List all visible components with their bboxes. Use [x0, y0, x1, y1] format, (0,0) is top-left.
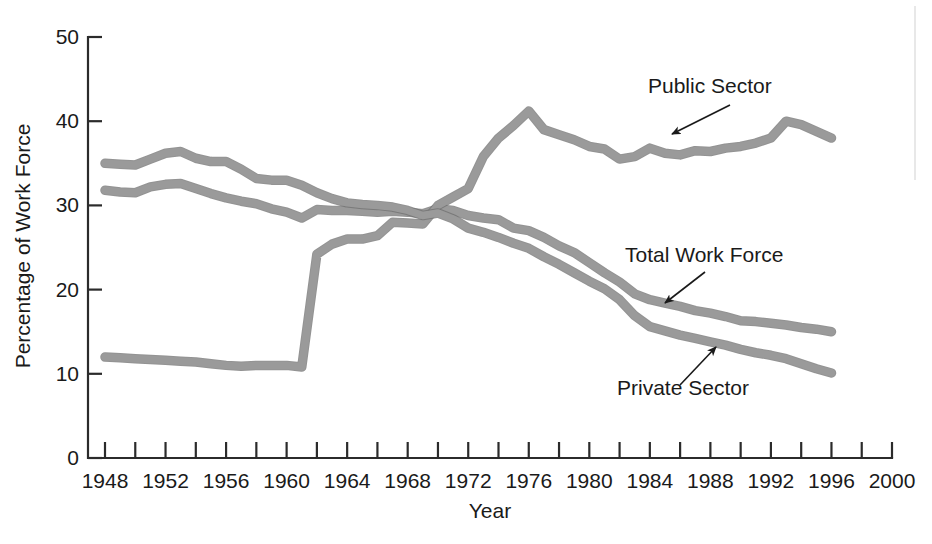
y-axis-ticks — [88, 37, 102, 458]
annotation-label-total-work-force: Total Work Force — [625, 243, 783, 266]
x-tick-label: 1992 — [748, 469, 795, 492]
x-tick-label: 1980 — [566, 469, 613, 492]
x-tick-label: 1948 — [82, 469, 129, 492]
y-tick-label: 40 — [56, 109, 79, 132]
x-axis-title: Year — [469, 499, 511, 522]
x-tick-label: 1952 — [142, 469, 189, 492]
x-tick-label: 1964 — [324, 469, 371, 492]
chart-container: 01020304050 1948195219561960196419681972… — [0, 0, 932, 544]
y-axis-title: Percentage of Work Force — [11, 124, 34, 369]
x-axis-tick-labels: 1948195219561960196419681972197619801984… — [82, 469, 916, 492]
x-tick-label: 1972 — [445, 469, 492, 492]
y-axis-tick-labels: 01020304050 — [56, 25, 79, 469]
x-tick-label: 2000 — [869, 469, 916, 492]
annotation-label-private-sector: Private Sector — [617, 376, 749, 399]
x-tick-label: 1996 — [808, 469, 855, 492]
y-tick-label: 10 — [56, 362, 79, 385]
series-line-public-sector — [105, 111, 831, 367]
x-tick-label: 1984 — [626, 469, 673, 492]
annotation-label-public-sector: Public Sector — [648, 74, 772, 97]
line-chart: 01020304050 1948195219561960196419681972… — [0, 0, 932, 544]
y-tick-label: 20 — [56, 278, 79, 301]
y-tick-label: 0 — [67, 446, 79, 469]
x-tick-label: 1968 — [384, 469, 431, 492]
x-tick-label: 1976 — [505, 469, 552, 492]
x-tick-label: 1960 — [263, 469, 310, 492]
annotation-arrow-total-work-force — [665, 272, 705, 303]
x-tick-label: 1956 — [203, 469, 250, 492]
x-tick-label: 1988 — [687, 469, 734, 492]
y-tick-label: 30 — [56, 193, 79, 216]
x-axis-minor-ticks — [135, 442, 861, 458]
y-tick-label: 50 — [56, 25, 79, 48]
annotation-arrow-public-sector — [672, 105, 730, 134]
